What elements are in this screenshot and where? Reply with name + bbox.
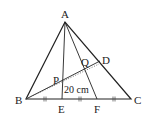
label-q: Q	[81, 56, 89, 68]
label-c: C	[134, 94, 141, 106]
label-f: F	[94, 103, 100, 115]
label-d: D	[102, 54, 110, 66]
label-a: A	[61, 8, 69, 20]
label-e: E	[58, 103, 65, 115]
label-b: B	[15, 94, 22, 106]
label-p: P	[53, 74, 59, 86]
triangle-diagram: A B C D E F P Q 20 cm	[0, 0, 151, 117]
measurement-label: 20 cm	[64, 84, 89, 95]
